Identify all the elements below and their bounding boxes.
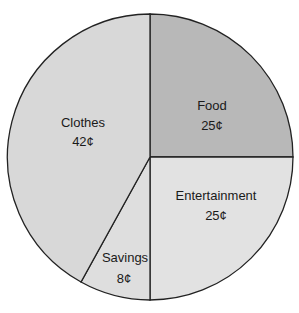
label-food-value: 25¢ xyxy=(201,118,223,133)
label-clothes-value: 42¢ xyxy=(72,134,94,149)
slice-entertainment xyxy=(150,157,293,300)
label-clothes-name: Clothes xyxy=(61,115,106,130)
label-savings-value: 8¢ xyxy=(117,271,131,286)
label-savings-name: Savings xyxy=(102,250,149,265)
slice-food xyxy=(150,14,293,157)
label-entertainment-value: 25¢ xyxy=(205,208,227,223)
label-entertainment-name: Entertainment xyxy=(176,188,257,203)
label-food-name: Food xyxy=(197,98,227,113)
pie-chart: Food 25¢ Entertainment 25¢ Savings 8¢ Cl… xyxy=(0,0,299,313)
